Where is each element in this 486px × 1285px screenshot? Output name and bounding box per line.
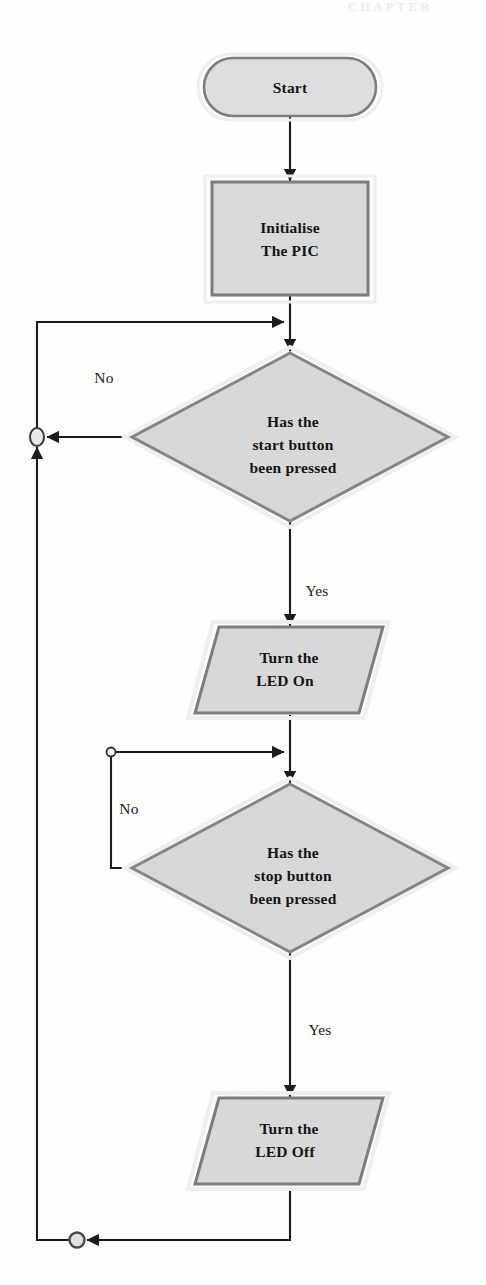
edge-led-off-return <box>88 1188 290 1240</box>
node-initialise-label-line2: The PIC <box>261 242 319 259</box>
node-start[interactable]: Start <box>198 54 382 120</box>
flowchart-page: CHAPTER the wire and turn the button pre… <box>0 0 486 1285</box>
ghost-chapter-heading: CHAPTER <box>348 0 433 14</box>
edge-label-no-stop: No <box>119 800 138 817</box>
node-decision-stop-label-line1: Has the <box>267 844 319 861</box>
node-led-off-label-line2: LED Off <box>255 1143 315 1160</box>
node-led-off-shape <box>195 1098 383 1184</box>
node-led-on-shape <box>195 627 383 713</box>
edge-label-yes-stop: Yes <box>308 1021 331 1038</box>
node-initialise-pic[interactable]: Initialise The PIC <box>205 176 375 302</box>
node-decision-stop-button[interactable]: Has the stop button been pressed <box>125 778 455 958</box>
node-decision-stop-label-line2: stop button <box>254 867 332 884</box>
ghost-background-text: CHAPTER the wire and turn the button pre… <box>200 0 432 1153</box>
connector-outer-loop-node <box>30 428 44 446</box>
node-decision-start-label-line3: been pressed <box>250 459 337 476</box>
node-decision-start-button[interactable]: Has the start button been pressed <box>125 347 455 527</box>
node-initialise-shape <box>212 182 368 295</box>
node-start-label: Start <box>273 79 308 96</box>
node-initialise-label-line1: Initialise <box>260 219 320 236</box>
connector-restart-node <box>70 1233 85 1248</box>
flowchart-canvas: CHAPTER the wire and turn the button pre… <box>0 0 486 1285</box>
node-decision-start-label-line1: Has the <box>267 413 319 430</box>
node-turn-led-on[interactable]: Turn the LED On <box>188 622 389 718</box>
node-led-off-label-line1: Turn the <box>259 1120 318 1137</box>
edge-label-yes-start: Yes <box>305 582 328 599</box>
node-led-on-label-line1: Turn the <box>259 649 318 666</box>
node-decision-stop-label-line3: been pressed <box>250 890 337 907</box>
node-turn-led-off[interactable]: Turn the LED Off <box>188 1093 389 1189</box>
connector-inner-loop-node <box>107 748 116 757</box>
edge-label-no-start: No <box>94 369 113 386</box>
node-led-on-label-line2: LED On <box>256 672 314 689</box>
node-decision-start-label-line2: start button <box>252 436 333 453</box>
